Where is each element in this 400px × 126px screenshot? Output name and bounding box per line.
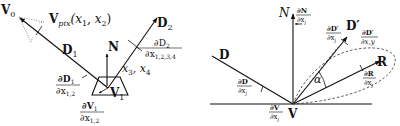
left-diagram: V0 Vpix(x1, x2) D1 D2 N V1 x3, x4 ∂D2 ∂x… [0, 3, 182, 124]
label-d1: D1 [62, 43, 78, 59]
svg-text:∂xj: ∂xj [327, 34, 337, 44]
label-x3-x4: x3, x4 [122, 62, 151, 77]
dD-tick [261, 86, 263, 92]
svg-text:∂D1: ∂D1 [58, 74, 74, 85]
svg-text:∂V1: ∂V1 [82, 101, 98, 112]
label-v1: V1 [109, 86, 124, 102]
derivative-dD: ∂D ∂xj [237, 77, 252, 97]
svg-text:∂D: ∂D [238, 77, 248, 86]
derivative-dV: ∂V ∂xj [269, 103, 283, 123]
svg-text:∂D′: ∂D′ [362, 28, 374, 37]
label-d-prime: D′ [346, 19, 360, 33]
svg-text:∂x1,2: ∂x1,2 [80, 113, 99, 124]
svg-text:∂x,y: ∂x,y [361, 38, 376, 46]
svg-text:∂R: ∂R [364, 69, 374, 78]
ray-d-prime-arrow [293, 37, 347, 104]
derivative-dN: ∂N ∂xj [296, 6, 311, 26]
svg-text:∂N: ∂N [297, 6, 308, 15]
label-v: V [287, 107, 298, 121]
derivative-dD1: ∂D1 ∂x1,2 [56, 74, 80, 97]
svg-text:∂x1,2,3,4: ∂x1,2,3,4 [145, 49, 176, 60]
label-v0: V0 [0, 3, 15, 19]
right-diagram: N D D′ R V α ∂N ∂xj ∂D′ ∂xj ∂D′ ∂x,y ∂R … [210, 6, 395, 123]
dD1-tick [82, 75, 87, 78]
label-vpix: Vpix(x1, x2) [48, 12, 111, 28]
label-d2: D2 [157, 16, 173, 32]
label-n: N [278, 6, 290, 20]
derivative-dD-prime: ∂D′ ∂xj [326, 24, 341, 44]
label-n: N [108, 40, 119, 54]
derivative-dV1: ∂V1 ∂x1,2 [80, 101, 104, 124]
svg-text:∂xj: ∂xj [270, 113, 280, 123]
derivative-dD2: ∂D2 ∂x1,2,3,4 [145, 38, 176, 60]
svg-text:∂D′: ∂D′ [327, 24, 339, 33]
ray-d [212, 56, 293, 104]
derivative-dR: ∂R ∂xj [363, 69, 376, 89]
label-alpha: α [314, 73, 322, 86]
svg-text:∂D2: ∂D2 [154, 38, 170, 49]
diagram-canvas: V0 Vpix(x1, x2) D1 D2 N V1 x3, x4 ∂D2 ∂x… [0, 0, 400, 126]
svg-text:∂x1,2: ∂x1,2 [56, 86, 75, 97]
svg-text:∂xj: ∂xj [238, 87, 248, 97]
svg-text:∂V: ∂V [270, 103, 280, 112]
derivative-dD-prime-xy: ∂D′ ∂x,y [361, 28, 378, 46]
label-r: R [377, 55, 388, 69]
dV1-arrow [99, 88, 108, 93]
label-d: D [219, 48, 229, 62]
pixel-frustum-bottom [19, 17, 33, 42]
